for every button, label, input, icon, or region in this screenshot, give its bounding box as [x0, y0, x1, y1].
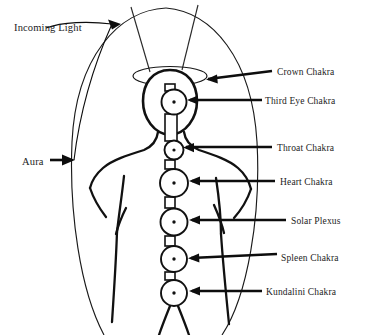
label-solar-plexus: Solar Plexus — [291, 216, 341, 226]
label-crown-chakra: Crown Chakra — [277, 67, 335, 77]
label-throat-chakra: Throat Chakra — [277, 143, 335, 153]
light-rays — [131, 5, 198, 72]
chakra-spleen — [161, 246, 187, 272]
chakra-solar-plexus — [161, 209, 188, 236]
label-heart-chakra: Heart Chakra — [280, 177, 333, 187]
leader-crown-chakra — [206, 71, 272, 84]
leader-throat-chakra — [183, 143, 272, 152]
label-kundalini-chakra: Kundalini Chakra — [266, 287, 337, 297]
label-third-eye-chakra: Third Eye Chakra — [265, 96, 336, 106]
chakra-kundalini — [161, 280, 187, 306]
leader-solar-plexus — [189, 215, 286, 224]
chakra-heart — [160, 169, 188, 197]
leader-spleen-chakra — [188, 253, 277, 262]
leader-heart-chakra — [189, 176, 275, 185]
chakra-third-eye — [162, 90, 187, 115]
label-spleen-chakra: Spleen Chakra — [281, 253, 339, 263]
aura-chakra-diagram: Incoming Light Aura Crown Chakra Third E… — [0, 0, 378, 335]
label-incoming-light: Incoming Light — [14, 22, 82, 33]
chakra-throat — [165, 141, 184, 160]
label-aura: Aura — [22, 156, 44, 167]
incoming-light-arc — [46, 22, 112, 160]
diagram-canvas: Incoming Light Aura Crown Chakra Third E… — [0, 0, 378, 335]
